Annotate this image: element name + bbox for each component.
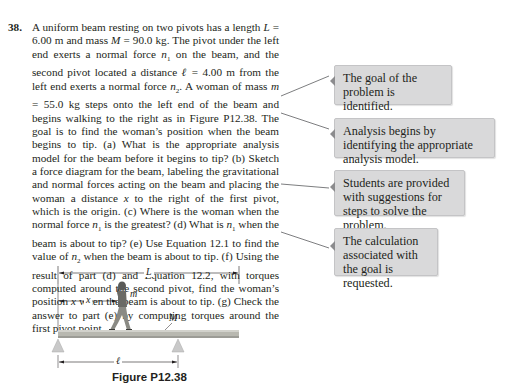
label-M: M xyxy=(167,312,179,323)
callout-goal-identified: The goal of the problem is identified. xyxy=(334,65,452,105)
connector-line-analysis xyxy=(281,113,329,129)
label-ell: ℓ xyxy=(114,355,122,366)
label-x: x xyxy=(84,294,92,305)
connector-line-calculation xyxy=(281,232,329,248)
right-pivot xyxy=(172,339,184,352)
callout-analysis-model: Analysis begins by identifying the appro… xyxy=(334,118,495,158)
figure-caption: Figure P12.38 xyxy=(112,371,187,383)
connector-line-suggestions xyxy=(281,184,329,188)
callout-suggested-steps: Students are provided with suggestions f… xyxy=(334,170,465,216)
callout-calculation-requested: The calculation associated with the goal… xyxy=(334,228,438,276)
left-pivot xyxy=(52,339,64,352)
connector-line-goal xyxy=(281,76,329,96)
label-L: L xyxy=(144,266,154,277)
label-m: m xyxy=(128,288,139,299)
